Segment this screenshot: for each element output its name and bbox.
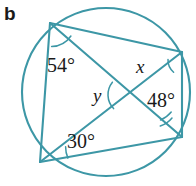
angle-label-54: 54° — [47, 55, 75, 75]
angle-label-48: 48° — [147, 90, 175, 110]
geometry-figure: b 54° x y 48° 30° — [0, 0, 196, 186]
part-label-b: b — [4, 4, 16, 23]
angle-label-x: x — [136, 57, 144, 76]
edge-CD — [40, 137, 182, 162]
angle-arc-48-upper — [161, 112, 172, 120]
edge-DA — [40, 23, 50, 162]
angle-label-30: 30° — [67, 131, 95, 151]
angle-label-y: y — [93, 86, 101, 105]
